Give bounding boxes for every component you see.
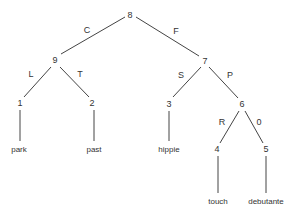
tree-node: 4	[214, 144, 219, 154]
edge-label: 0	[256, 117, 261, 127]
tree-node: 5	[263, 144, 268, 154]
leaf-word: debutante	[248, 197, 284, 207]
edge-label: L	[28, 69, 33, 79]
leaf-word: past	[86, 145, 101, 155]
edge-label: S	[178, 70, 184, 80]
tree-node: 6	[239, 99, 244, 109]
tree-node: 7	[202, 56, 207, 66]
edge-label: T	[77, 69, 83, 79]
edge-label: P	[227, 70, 233, 80]
tree-node: 3	[166, 99, 171, 109]
tree-node: 1	[17, 98, 22, 108]
tree-node: 2	[89, 98, 94, 108]
tree-edges	[0, 0, 290, 217]
tree-node: 9	[52, 55, 57, 65]
edge-label: C	[84, 25, 91, 35]
tree-node: 8	[127, 10, 132, 20]
leaf-word: park	[11, 145, 27, 155]
leaf-word: hippie	[158, 145, 179, 155]
edge-label: F	[173, 26, 179, 36]
leaf-word: touch	[208, 197, 228, 207]
edge-label: R	[219, 117, 226, 127]
